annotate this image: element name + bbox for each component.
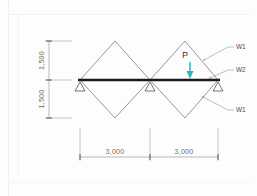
point-load-arrow [187,62,194,79]
leader-w1-bottom [202,96,234,110]
drawing-canvas: P W1 W2 W1 [0,0,257,196]
vertical-dimension-bottom-label: 1,500 [37,90,46,109]
point-load-label: P [182,50,188,60]
horizontal-dimension-left-label: 3,000 [106,147,125,156]
member-label-w1-top: W1 [236,43,246,50]
leader-w1-top [203,47,234,61]
horizontal-dimension-extensions [80,128,218,161]
support-right [213,82,223,91]
vertical-dimension-top-label: 1,500 [37,51,46,70]
structural-diagram: P W1 W2 W1 [0,0,257,196]
member-label-w1-bottom: W1 [236,106,246,113]
member-label-w2-mid: W2 [236,66,246,73]
horizontal-dimension-right-label: 3,000 [175,147,194,156]
